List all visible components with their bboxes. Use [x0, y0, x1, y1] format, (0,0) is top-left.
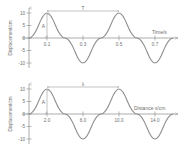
chart-svg-time: 10 5 0 -5 -10 0.1 0.3 0.5 0.7 T A Tim — [0, 0, 189, 76]
y-tick-label-10-time: 10 — [20, 11, 26, 16]
y-tick-label-0-time: 0 — [22, 36, 25, 41]
y-tick-label-neg10-time: -10 — [18, 61, 25, 66]
chart-svg-distance: 10 5 0 -5 -10 2.0 6.0 10.0 14.0 λ A Dist… — [0, 76, 189, 152]
chart-displacement-time: 10 5 0 -5 -10 0.1 0.3 0.5 0.7 T A Tim — [0, 0, 189, 76]
y-tick-label-neg5-distance: -5 — [21, 124, 26, 129]
y-tick-label-neg5-time: -5 — [21, 48, 26, 53]
x-tick-label-0.7-time: 0.7 — [152, 42, 159, 47]
wave-graphs-figure: 10 5 0 -5 -10 0.1 0.3 0.5 0.7 T A Tim — [0, 0, 189, 152]
x-tick-label-6.0-distance: 6.0 — [80, 118, 87, 123]
y-axis-title-distance: Displacement/cm — [8, 96, 13, 131]
y-tick-label-10-distance: 10 — [20, 87, 26, 92]
chart-displacement-distance: 10 5 0 -5 -10 2.0 6.0 10.0 14.0 λ A Dist… — [0, 76, 189, 152]
x-tick-label-10.0-distance: 10.0 — [115, 118, 124, 123]
x-tick-label-0.3-time: 0.3 — [80, 42, 87, 47]
x-tick-label-14.0-distance: 14.0 — [151, 118, 160, 123]
wavelength-marker-label: λ — [82, 81, 85, 87]
x-axis-title-distance: Distance x/cm — [134, 105, 165, 111]
x-tick-label-0.1-time: 0.1 — [44, 42, 51, 47]
amplitude-marker-label-distance: A — [42, 99, 46, 105]
period-marker-label: T — [81, 5, 84, 11]
y-tick-label-5-time: 5 — [22, 23, 25, 28]
y-tick-label-0-distance: 0 — [22, 112, 25, 117]
y-tick-label-5-distance: 5 — [22, 99, 25, 104]
x-axis-title-time: Time/s — [152, 29, 167, 35]
amplitude-marker-label-time: A — [42, 23, 46, 29]
x-tick-label-2.0-distance: 2.0 — [44, 118, 51, 123]
x-tick-label-0.5-time: 0.5 — [116, 42, 123, 47]
y-tick-label-neg10-distance: -10 — [18, 137, 25, 142]
y-axis-title-time: Displacement/cm — [8, 20, 13, 55]
